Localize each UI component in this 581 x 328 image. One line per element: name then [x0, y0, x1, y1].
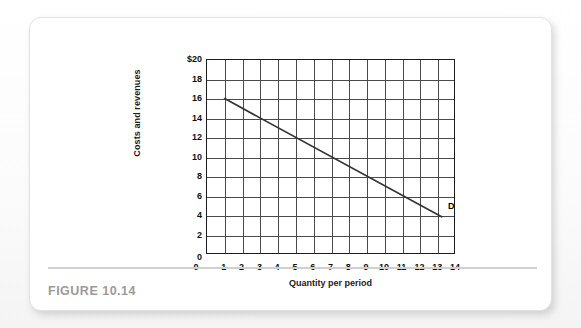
- y-axis-tick-labels: $20 18 16 14 12 10 8 6 4 2 0: [158, 59, 202, 254]
- x-axis-title: Quantity per period: [206, 278, 455, 288]
- y-tick-6: 6: [162, 191, 202, 201]
- y-tick-8: 8: [162, 171, 202, 181]
- y-tick-0: 0: [162, 252, 202, 262]
- y-tick-20: $20: [162, 54, 202, 64]
- demand-curve: [207, 60, 454, 253]
- y-tick-18: 18: [162, 74, 202, 84]
- y-tick-4: 4: [162, 210, 202, 220]
- figure-card: Costs and revenues $20 18 16 14 12 10 8 …: [29, 17, 552, 311]
- y-tick-2: 2: [162, 230, 202, 240]
- demand-curve-label: D: [448, 201, 455, 211]
- y-tick-10: 10: [162, 152, 202, 162]
- y-tick-14: 14: [162, 113, 202, 123]
- chart-area: Costs and revenues $20 18 16 14 12 10 8 …: [130, 24, 460, 274]
- y-tick-12: 12: [162, 132, 202, 142]
- caption-divider: [48, 267, 537, 269]
- plot-area: D: [206, 59, 455, 254]
- y-tick-16: 16: [162, 93, 202, 103]
- y-axis-title: Costs and revenues: [132, 38, 142, 188]
- x-axis-tick-labels: 1 2 3 4 5 6 7 8 9 10 11 12 13 14: [206, 262, 455, 276]
- figure-caption: FIGURE 10.14: [48, 284, 136, 298]
